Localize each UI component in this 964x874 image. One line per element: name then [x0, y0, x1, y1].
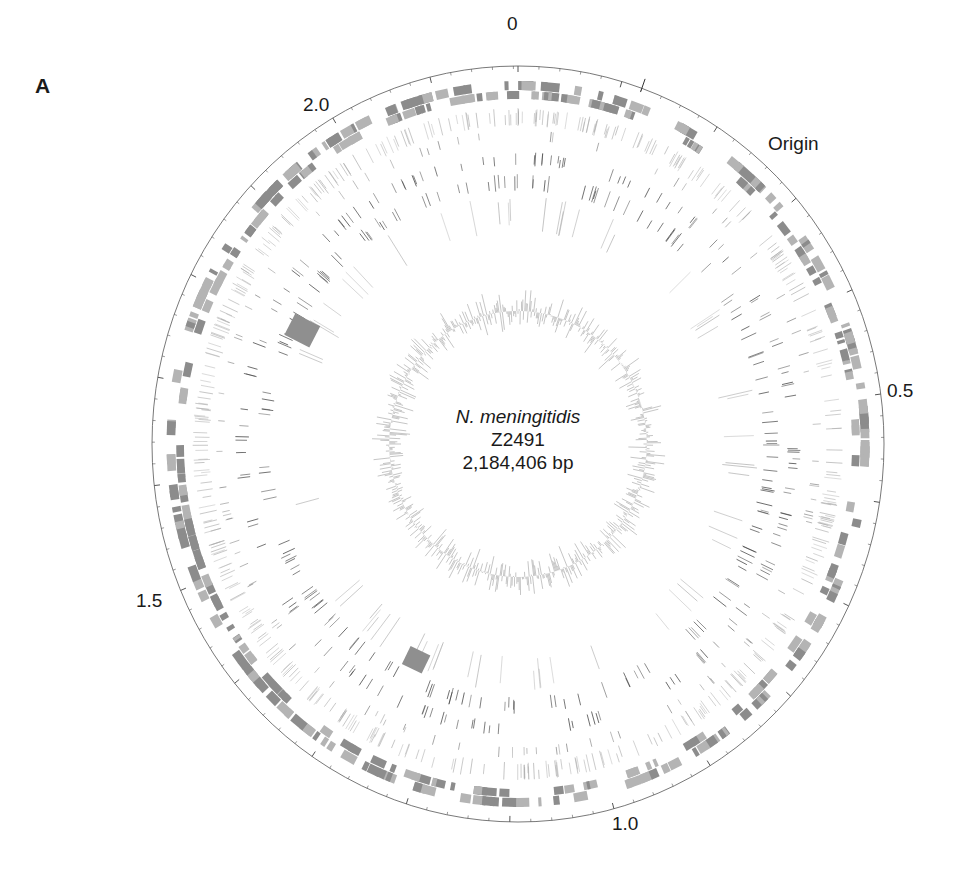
- strain-name: Z2491: [418, 428, 618, 451]
- origin-label: Origin: [768, 134, 819, 153]
- scale-label-0-5: 0.5: [887, 381, 913, 400]
- island-block-2: [402, 646, 431, 674]
- origin-marker: [641, 79, 646, 92]
- scale-label-1-5: 1.5: [136, 591, 162, 610]
- scale-label-2-0: 2.0: [303, 95, 329, 114]
- genome-size: 2,184,406 bp: [418, 451, 618, 474]
- scale-label-0: 0: [507, 14, 518, 33]
- panel-label: A: [35, 74, 50, 98]
- scale-label-1-0: 1.0: [612, 814, 638, 833]
- organism-name: N. meningitidis: [418, 405, 618, 428]
- genome-title: N. meningitidis Z2491 2,184,406 bp: [418, 405, 618, 474]
